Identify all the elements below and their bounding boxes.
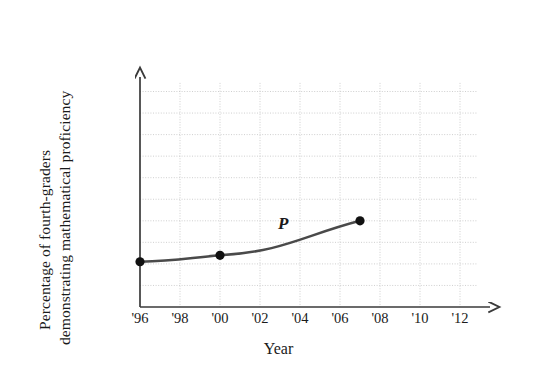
x-tick-label: '98 — [171, 311, 188, 326]
x-tick-label: '96 — [131, 311, 148, 326]
x-tick-label: '04 — [291, 311, 308, 326]
data-point-markers — [135, 216, 364, 266]
axes — [140, 77, 490, 307]
x-tick-label: '10 — [411, 311, 428, 326]
y-axis-title-line2: demonstrating mathematical proficiency — [56, 91, 74, 345]
x-tick-label: '02 — [251, 311, 268, 326]
x-axis-title-wrap: Year — [0, 340, 533, 358]
grid-lines — [140, 83, 478, 307]
x-tick-label: '00 — [211, 311, 228, 326]
curve-label-p: P — [278, 214, 288, 234]
y-axis-title-line1: Percentage of fourth-graders — [36, 150, 54, 330]
data-series — [140, 221, 360, 262]
x-tick-label: '06 — [331, 311, 348, 326]
chart-figure: 100%908070605040302010 '96'98'00'02'04'0… — [0, 0, 533, 378]
x-axis-title: Year — [264, 340, 293, 358]
x-tick-label: '12 — [451, 311, 468, 326]
x-tick-label: '08 — [371, 311, 388, 326]
